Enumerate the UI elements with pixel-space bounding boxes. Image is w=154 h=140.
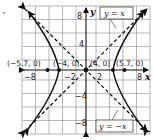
hyperbola-graph: (−5.7, 0) (−4, 0) (4, 0) (5.7, 0) −8 −2 … xyxy=(0,0,154,140)
focus-left-point xyxy=(46,68,50,72)
tick-x-neg8: −8 xyxy=(24,73,36,82)
origin-point xyxy=(84,68,89,73)
vertex-left-point xyxy=(57,68,61,72)
tick-y-neg4: −4 xyxy=(75,92,87,101)
x-axis-label: x xyxy=(144,72,151,82)
asymptote-label-pos: y = x xyxy=(100,7,133,28)
tick-y-4: 4 xyxy=(79,40,84,49)
y-axis-label: y xyxy=(89,7,96,17)
tick-x-2: 2 xyxy=(97,73,102,82)
tick-x-8: 8 xyxy=(137,73,142,82)
tick-y-8: 8 xyxy=(77,12,82,21)
stray-dot xyxy=(3,12,5,14)
asymptote-label-neg: y = −x xyxy=(96,110,133,132)
tick-x-neg2: −2 xyxy=(64,73,76,82)
svg-text:y = −x: y = −x xyxy=(98,122,127,131)
focus-right-label: (5.7, 0) xyxy=(116,59,143,68)
vertex-right-point xyxy=(111,68,115,72)
vertex-right-label: (4, 0) xyxy=(90,59,110,68)
tick-y-neg8: −8 xyxy=(75,119,87,128)
points xyxy=(46,68,127,73)
svg-text:y = x: y = x xyxy=(103,9,125,18)
focus-left-label: (−5.7, 0) xyxy=(7,59,41,68)
focus-right-point xyxy=(123,68,127,72)
vertex-left-label: (−4, 0) xyxy=(53,59,80,68)
